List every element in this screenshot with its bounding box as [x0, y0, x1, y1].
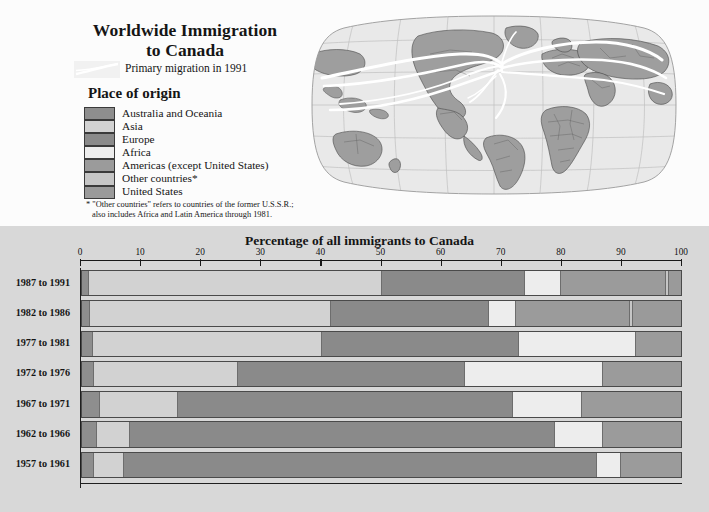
bar-segment[interactable]	[603, 362, 681, 386]
legend-swatch	[84, 107, 115, 120]
stacked-bar[interactable]	[81, 391, 682, 417]
primary-migration-label: Primary migration in 1991	[125, 62, 247, 74]
chart-title: Percentage of all immigrants to Canada	[0, 233, 709, 249]
bar-row	[81, 329, 682, 359]
legend-swatch	[84, 186, 115, 199]
title-line-1: Worldwide Immigration	[93, 20, 277, 40]
bar-segment[interactable]	[633, 301, 681, 325]
stacked-bar[interactable]	[81, 361, 682, 387]
bar-segment[interactable]	[94, 453, 124, 477]
bar-segment[interactable]	[97, 422, 130, 446]
y-axis-label: 1977 to 1981	[0, 337, 70, 348]
bar-segment[interactable]	[621, 453, 681, 477]
bar-segment[interactable]	[603, 422, 681, 446]
bar-segment[interactable]	[525, 271, 561, 295]
y-axis-labels: 1987 to 19911982 to 19861977 to 19811972…	[0, 268, 76, 483]
bar-segment[interactable]	[582, 392, 681, 416]
bar-segment[interactable]	[100, 392, 178, 416]
x-tick-label-70: 70	[496, 247, 505, 257]
x-tick-label-20: 20	[196, 247, 205, 257]
bar-segment[interactable]	[130, 422, 555, 446]
bar-row	[81, 268, 682, 298]
bar-segment[interactable]	[94, 362, 238, 386]
stacked-bar[interactable]	[81, 300, 682, 326]
bar-segment[interactable]	[82, 453, 94, 477]
legend-item-united-states: United States	[84, 186, 344, 199]
bar-segment[interactable]	[561, 271, 666, 295]
legend-swatch	[84, 159, 115, 172]
x-tick-label-0: 0	[78, 247, 83, 257]
bar-row	[81, 298, 682, 328]
legend-label: Africa	[122, 146, 151, 160]
bar-segment[interactable]	[82, 271, 89, 295]
legend-swatch	[84, 146, 115, 159]
x-tick-label-60: 60	[436, 247, 445, 257]
bar-segment[interactable]	[516, 301, 630, 325]
bar-segment[interactable]	[465, 362, 603, 386]
legend-footnote: * "Other countries" refers to countries …	[86, 200, 376, 219]
bar-segment[interactable]	[382, 271, 526, 295]
stacked-bar[interactable]	[81, 270, 682, 296]
bar-segment[interactable]	[82, 362, 94, 386]
y-axis-label: 1972 to 1976	[0, 367, 70, 378]
legend-label: Americas (except United States)	[122, 159, 269, 173]
bar-segment[interactable]	[82, 422, 97, 446]
bar-segment[interactable]	[519, 332, 636, 356]
bar-segment[interactable]	[82, 301, 90, 325]
x-tick-label-50: 50	[376, 247, 385, 257]
bar-segment[interactable]	[331, 301, 490, 325]
page-title: Worldwide Immigration to Canada	[72, 20, 298, 60]
x-tick-60	[441, 259, 442, 266]
stacked-bar-plot	[80, 268, 682, 483]
bar-row	[81, 389, 682, 419]
x-tick-20	[200, 259, 201, 266]
primary-migration-swatch	[74, 61, 120, 78]
legend-title: Place of origin	[88, 85, 180, 102]
x-tick-label-80: 80	[556, 247, 565, 257]
legend-item-europe: Europe	[84, 133, 344, 146]
bar-segment[interactable]	[636, 332, 681, 356]
bar-row	[81, 419, 682, 449]
y-axis-label: 1982 to 1986	[0, 307, 70, 318]
legend-swatch	[84, 172, 115, 185]
y-axis-label: 1962 to 1966	[0, 428, 70, 439]
legend-swatch	[84, 120, 115, 133]
x-tick-10	[140, 259, 141, 266]
legend-label: United States	[122, 185, 183, 199]
footnote-line-1: * "Other countries" refers to countries …	[86, 200, 294, 209]
stacked-bar[interactable]	[81, 452, 682, 478]
bar-segment[interactable]	[124, 453, 597, 477]
bar-segment[interactable]	[513, 392, 582, 416]
x-tick-70	[501, 259, 502, 266]
bar-segment[interactable]	[489, 301, 516, 325]
bar-segment[interactable]	[82, 392, 100, 416]
x-tick-50	[381, 259, 382, 266]
header-panel: Worldwide Immigration to Canada Primary …	[0, 0, 709, 222]
plot-bottom-tick	[80, 484, 81, 488]
stacked-bar[interactable]	[81, 331, 682, 357]
x-tick-label-100: 100	[674, 247, 688, 257]
y-axis-label: 1957 to 1961	[0, 458, 70, 469]
bar-segment[interactable]	[555, 422, 603, 446]
bar-segment[interactable]	[93, 332, 322, 356]
x-tick-0	[80, 259, 81, 266]
x-tick-label-40: 40	[316, 247, 325, 257]
bar-segment[interactable]	[178, 392, 513, 416]
bar-segment[interactable]	[597, 453, 621, 477]
stacked-bar[interactable]	[81, 421, 682, 447]
bar-segment[interactable]	[82, 332, 93, 356]
plot-bottom-border	[80, 483, 682, 484]
legend-item-australia-oceania: Australia and Oceania	[84, 107, 344, 120]
legend: Australia and Oceania Asia Europe Africa…	[84, 107, 344, 199]
bar-segment[interactable]	[322, 332, 520, 356]
legend-label: Europe	[122, 133, 155, 147]
bar-segment[interactable]	[89, 271, 381, 295]
bar-segment[interactable]	[669, 271, 681, 295]
x-tick-label-10: 10	[135, 247, 144, 257]
legend-swatch	[84, 133, 115, 146]
bar-segment[interactable]	[238, 362, 466, 386]
bar-segment[interactable]	[90, 301, 331, 325]
bar-row	[81, 359, 682, 389]
footnote-line-2: also includes Africa and Latin America t…	[86, 210, 376, 220]
x-tick-label-30: 30	[256, 247, 265, 257]
